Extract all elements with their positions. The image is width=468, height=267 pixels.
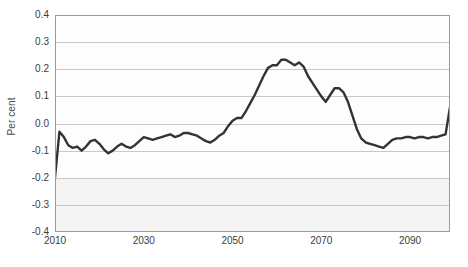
y-axis-tick-label: 0.0 bbox=[35, 119, 49, 129]
x-axis-tick-label: 2010 bbox=[44, 236, 66, 246]
chart-plot-svg bbox=[55, 15, 450, 232]
x-axis-tick-label: 2070 bbox=[310, 236, 332, 246]
y-axis-tick-label: -0.2 bbox=[32, 173, 49, 183]
x-axis-tick-label: 2090 bbox=[399, 236, 421, 246]
plot-area bbox=[55, 15, 450, 232]
x-axis-tick-label: 2030 bbox=[133, 236, 155, 246]
x-axis-tick-labels: 20102030205020702090 bbox=[0, 236, 468, 256]
y-axis-tick-labels: 0.40.30.20.10.0-0.1-0.2-0.3-0.4 bbox=[20, 0, 52, 247]
chart-container: Per cent 0.40.30.20.10.0-0.1-0.2-0.3-0.4… bbox=[0, 0, 468, 267]
y-axis-title-label: Per cent bbox=[6, 97, 17, 135]
gridlines bbox=[55, 16, 450, 233]
y-axis-tick-label: 0.2 bbox=[35, 64, 49, 74]
y-axis-tick-label: 0.4 bbox=[35, 10, 49, 20]
y-axis-title: Per cent bbox=[0, 0, 22, 232]
y-axis-tick-label: 0.1 bbox=[35, 91, 49, 101]
y-axis-tick-label: -0.1 bbox=[32, 146, 49, 156]
data-series bbox=[55, 60, 450, 178]
x-axis-tick-label: 2050 bbox=[221, 236, 243, 246]
plot-border bbox=[56, 16, 450, 232]
y-axis-tick-label: -0.3 bbox=[32, 200, 49, 210]
series-line bbox=[55, 60, 450, 178]
y-axis-tick-label: 0.3 bbox=[35, 37, 49, 47]
